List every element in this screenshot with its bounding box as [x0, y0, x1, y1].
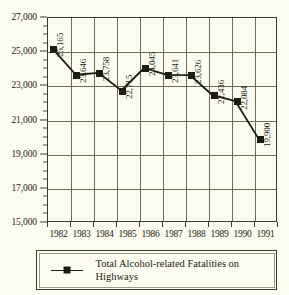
x-axis: 1982198319841985198619871988198919901991	[47, 222, 277, 244]
y-tick-major	[40, 51, 47, 52]
legend-entry-label: Total Alcohol-related Fatalities on High…	[96, 257, 268, 283]
x-tick-label: 1988	[187, 229, 205, 239]
y-tick-label: 23,000	[11, 80, 37, 90]
series-line	[48, 18, 276, 221]
y-tick-major	[40, 119, 47, 120]
x-tick-label: 1985	[118, 229, 136, 239]
y-tick-major	[40, 153, 47, 154]
legend: Total Alcohol-related Fatalities on High…	[36, 250, 277, 290]
x-tick-mark	[70, 222, 71, 227]
x-tick-mark	[47, 222, 48, 227]
x-tick-mark	[139, 222, 140, 227]
x-tick-label: 1990	[233, 229, 251, 239]
x-tick-label: 1986	[141, 229, 159, 239]
x-tick-mark	[93, 222, 94, 227]
data-point-label: 24,045	[147, 52, 157, 76]
y-tick-major	[40, 187, 47, 188]
x-tick-mark	[185, 222, 186, 227]
x-tick-mark	[162, 222, 163, 227]
legend-entry: Total Alcohol-related Fatalities on High…	[40, 254, 274, 287]
y-tick-label: 21,000	[11, 115, 37, 125]
y-tick-label: 19,000	[11, 149, 37, 159]
y-tick-major	[40, 85, 47, 86]
y-tick-label: 15,000	[11, 217, 37, 227]
data-point-label: 22,436	[216, 80, 226, 104]
data-point-label: 23,758	[101, 57, 111, 81]
data-point-label: 23,646	[78, 59, 88, 83]
y-tick-major	[40, 17, 47, 18]
plot-area: 25,16523,64623,75822,71524,04523,64123,6…	[47, 17, 277, 222]
x-tick-mark	[231, 222, 232, 227]
chart-figure: 15,00017,00019,00021,00023,00025,00027,0…	[0, 0, 289, 295]
y-axis: 15,00017,00019,00021,00023,00025,00027,0…	[0, 17, 47, 222]
x-tick-mark	[254, 222, 255, 227]
x-tick-mark	[277, 222, 278, 227]
x-tick-mark	[208, 222, 209, 227]
x-tick-label: 1991	[256, 229, 274, 239]
line-square-marker-icon	[48, 260, 86, 280]
data-point-label: 25,165	[55, 33, 65, 57]
y-tick-label: 27,000	[11, 12, 37, 22]
x-tick-label: 1987	[164, 229, 182, 239]
y-tick-label: 25,000	[11, 46, 37, 56]
data-point-label: 19,900	[262, 123, 272, 147]
y-tick-label: 17,000	[11, 183, 37, 193]
x-tick-label: 1983	[72, 229, 90, 239]
data-point-label: 22,715	[124, 75, 134, 99]
data-point-label: 22,084	[239, 86, 249, 110]
x-tick-mark	[116, 222, 117, 227]
legend-inner-border: Total Alcohol-related Fatalities on High…	[39, 253, 275, 288]
x-tick-label: 1982	[49, 229, 67, 239]
x-tick-label: 1984	[95, 229, 113, 239]
y-tick-major	[40, 222, 47, 223]
data-point-label: 23,641	[170, 59, 180, 83]
x-tick-label: 1989	[210, 229, 228, 239]
data-point-label: 23,626	[193, 59, 203, 83]
